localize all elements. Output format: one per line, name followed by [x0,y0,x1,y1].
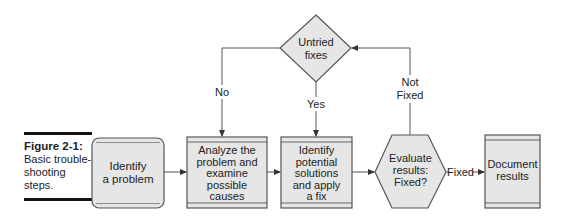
node-text: fixes [305,49,328,61]
node-text: a problem [102,173,153,185]
edge-label-fixed: Fixed [447,166,474,178]
node-text: examine [206,167,248,179]
node-text: results [496,170,529,182]
node-text: Identify [299,144,335,156]
node-text: Identify [109,160,146,172]
edge-label-not-fixed-2: Fixed [397,89,424,101]
node-evaluate-results: Evaluate results: Fixed? [375,135,446,208]
node-text: results: [393,164,428,176]
node-untried-fixes: Untried fixes [280,15,351,82]
node-text: causes [210,190,245,202]
node-text: problem and [196,156,257,168]
node-text: possible [207,179,247,191]
node-analyze-problem: Analyze the problem and examine possible… [187,137,267,208]
node-document-results: Document results [485,135,540,208]
node-text: Evaluate [389,152,432,164]
node-identify-problem: Identify a problem [92,138,164,208]
troubleshooting-flowchart: Identify a problem Analyze the problem a… [0,0,561,218]
edge-label-yes: Yes [307,98,325,110]
edge-label-no: No [215,86,229,98]
node-apply-fix: Identify potential solutions and apply a… [281,137,352,208]
node-text: Untried [298,36,333,48]
edge-label-not-fixed-1: Not [401,76,418,88]
node-text: Document [487,158,537,170]
node-text: Analyze the [198,144,255,156]
node-text: solutions [295,167,339,179]
node-text: potential [296,156,338,168]
node-text: a fix [306,190,327,202]
node-text: Fixed? [394,176,427,188]
node-text: and apply [293,179,341,191]
